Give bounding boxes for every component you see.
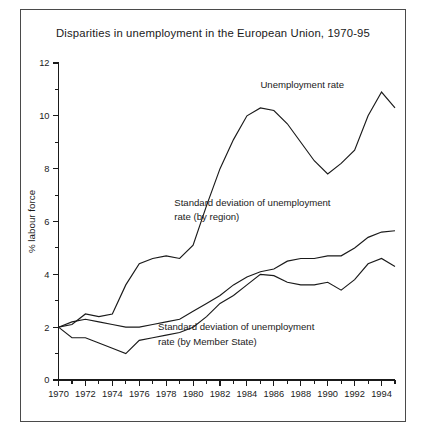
x-tick-label: 1988 [290, 389, 311, 399]
y-axis-title: % labour force [26, 189, 37, 253]
x-tick-label: 1980 [183, 389, 204, 399]
x-tick-label: 1984 [237, 389, 258, 399]
x-tick-label: 1976 [129, 389, 150, 399]
y-tick-label: 0 [44, 375, 49, 385]
y-tick-label: 2 [44, 323, 49, 333]
series-annotation: Standard deviation of unemployment [158, 321, 315, 332]
x-tick-label: 1972 [75, 389, 96, 399]
series-annotation: rate (by Member State) [158, 336, 257, 347]
x-tick-label: 1990 [317, 389, 338, 399]
y-tick-label: 8 [44, 164, 49, 174]
x-tick-label: 1992 [344, 389, 365, 399]
y-tick-label: 12 [39, 58, 49, 68]
x-tick-label: 1970 [48, 389, 69, 399]
x-tick-label: 1994 [371, 389, 392, 399]
series-annotation: rate (by region) [174, 211, 239, 222]
y-tick-label: 4 [44, 270, 49, 280]
series-line-1 [59, 231, 396, 327]
series-annotation: Standard deviation of unemployment [174, 197, 331, 208]
x-tick-label: 1982 [210, 389, 231, 399]
figure-frame: Disparities in unemployment in the Europ… [20, 9, 406, 422]
x-tick-label: 1974 [102, 389, 123, 399]
y-tick-label: 10 [39, 111, 49, 121]
x-tick-label: 1986 [264, 389, 285, 399]
series-line-0 [59, 92, 396, 327]
x-tick-label: 1978 [156, 389, 177, 399]
y-tick-label: 6 [44, 217, 49, 227]
chart-plot-area: 0246810121970197219741976197819801982198… [21, 10, 407, 423]
series-annotation: Unemployment rate [260, 79, 344, 90]
